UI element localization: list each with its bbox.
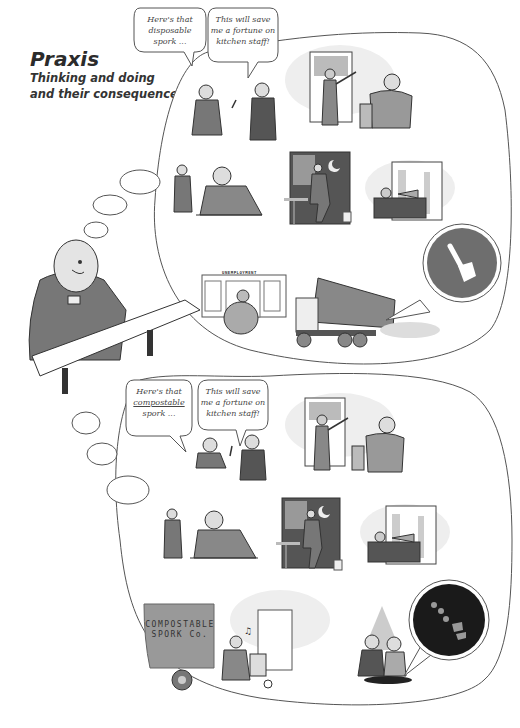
thought-bubble-small-1 [120, 170, 160, 194]
speech-line-underlined: compostable [128, 397, 190, 408]
comic-illustration: ♫ [0, 0, 520, 728]
speech-text-top-left: Here's that disposable spork ... [136, 14, 204, 47]
svg-text:♫: ♫ [244, 626, 252, 636]
thought-bubble-small-2 [93, 195, 127, 215]
speech-line: me a fortune on [200, 397, 266, 408]
truck-label-line-2: SPORK Co. [144, 630, 216, 640]
panel-top-worker-leaves [284, 152, 351, 224]
inset-top-spork-closeup [423, 224, 501, 302]
speech-text-top-right: This will save me a fortune on kitchen s… [210, 14, 276, 47]
speech-text-bottom-right: This will save me a fortune on kitchen s… [200, 386, 266, 419]
speech-line: This will save [210, 14, 276, 25]
speech-line: spork ... [128, 408, 190, 419]
panel-bottom-worker-leaves [276, 498, 342, 570]
panel-top-office-bonus [365, 160, 455, 220]
panel-bottom-office-bonus [360, 504, 450, 564]
speech-line: disposable spork ... [136, 25, 204, 47]
thought-bubble-small-3 [84, 222, 108, 238]
underlined-word: compostable [133, 398, 184, 407]
truck-label: COMPOSTABLE SPORK Co. [144, 620, 216, 640]
speech-line: me a fortune on [210, 25, 276, 36]
speech-line: kitchen staff! [200, 408, 266, 419]
thought-bubble-small-6 [107, 476, 149, 504]
speech-text-bottom-left: Here's that compostable spork ... [128, 386, 190, 419]
speech-line: Here's that [136, 14, 204, 25]
thought-bubble-small-5 [87, 443, 117, 465]
unemployment-sign: UNEMPLOYMENT [222, 270, 257, 275]
speech-line: This will save [200, 386, 266, 397]
thought-bubble-small-4 [72, 412, 100, 434]
truck-label-line-1: COMPOSTABLE [144, 620, 216, 630]
speech-line: Here's that [128, 386, 190, 397]
speech-line: kitchen staff! [210, 36, 276, 47]
